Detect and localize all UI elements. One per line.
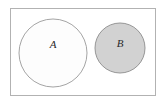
set-a-label: A bbox=[49, 38, 57, 50]
set-diagram-figure: A B bbox=[0, 0, 164, 103]
set-diagram-canvas: A B bbox=[0, 0, 164, 103]
set-b-label: B bbox=[117, 37, 124, 49]
set-a-circle bbox=[19, 19, 87, 87]
